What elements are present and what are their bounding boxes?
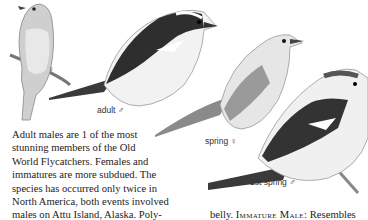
section-heading-immature-male: Immature Male:	[236, 209, 307, 220]
text-line: immatures are more subdued. The	[12, 168, 202, 181]
text-line: Adult males are 1 of the most	[12, 128, 202, 141]
text-line: World Flycatchers. Females and	[12, 155, 202, 168]
text-line: males on Attu Island, Alaska. Poly-	[12, 208, 202, 220]
text-suffix: Resembles	[307, 209, 356, 220]
text-line: stunning members of the Old	[12, 141, 202, 154]
text-line: species has occurred only twice in	[12, 182, 202, 195]
adult-male-label: adult ♂	[97, 105, 124, 115]
first-spring-male-label: 1st spring ♂	[250, 177, 296, 187]
text-line: North America, both events involved	[12, 195, 202, 208]
text-prefix: belly.	[210, 209, 236, 220]
right-column-text: belly. Immature Male: Resembles	[210, 208, 356, 220]
species-description: Adult males are 1 of the most stunning m…	[12, 128, 202, 220]
